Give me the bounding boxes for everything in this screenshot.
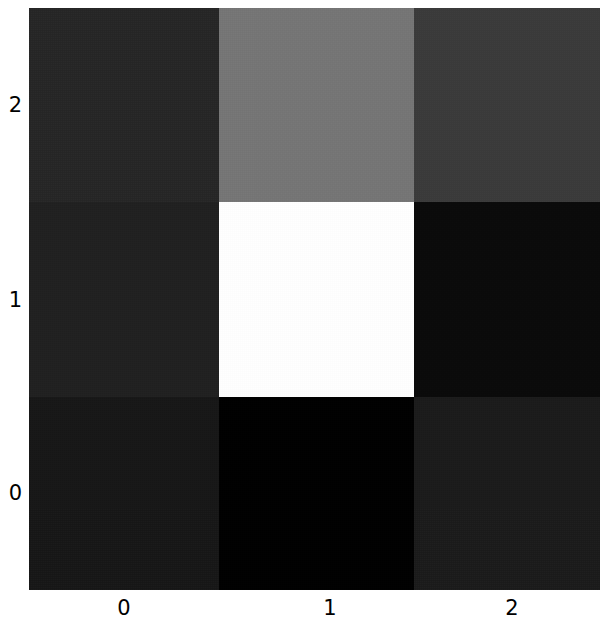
figure-canvas: 210 012	[0, 0, 610, 632]
heatmap-cell	[29, 202, 219, 397]
x-axis-tick-label: 2	[505, 598, 518, 619]
heatmap-cell	[29, 397, 219, 590]
heatmap-plot-area	[29, 8, 600, 590]
y-axis-tick-label: 1	[9, 290, 22, 311]
heatmap-cell	[219, 202, 414, 397]
heatmap-cell	[219, 8, 414, 202]
x-axis-tick-labels: 012	[0, 590, 610, 632]
heatmap-cell	[414, 202, 600, 397]
heatmap-cell	[29, 8, 219, 202]
x-axis-tick-label: 1	[323, 598, 336, 619]
heatmap-cell	[219, 397, 414, 590]
y-axis-tick-label: 0	[9, 483, 22, 504]
heatmap-cell	[414, 397, 600, 590]
y-axis-tick-label: 2	[9, 95, 22, 116]
heatmap-grid	[29, 8, 600, 590]
y-axis-tick-labels: 210	[0, 0, 29, 632]
heatmap-cell	[414, 8, 600, 202]
x-axis-tick-label: 0	[117, 598, 130, 619]
